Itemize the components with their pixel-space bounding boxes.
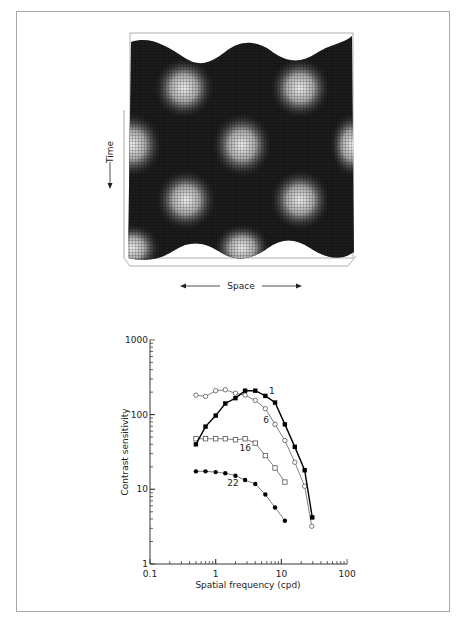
chart-axes: 0.11101001101001000: [125, 335, 356, 579]
y-tick-label: 1: [142, 559, 148, 569]
data-point: [302, 468, 306, 472]
data-point: [203, 424, 207, 428]
data-point: [203, 437, 207, 441]
x-tick-label: 10: [276, 569, 288, 579]
data-point: [223, 471, 227, 475]
series-22: [194, 469, 287, 523]
data-point: [293, 445, 297, 449]
y-axis-label: Contrast sensitivity: [120, 408, 130, 496]
x-axis-label: Spatial frequency (cpd): [195, 580, 300, 590]
contrast-sensitivity-chart: 0.11101001101001000 161622 Spatial frequ…: [0, 0, 466, 622]
series-6: [194, 388, 314, 529]
data-point: [283, 438, 287, 442]
x-tick-label: 0.1: [143, 569, 157, 579]
data-point: [223, 437, 227, 441]
data-point: [203, 394, 207, 398]
data-point: [194, 469, 198, 473]
data-point: [214, 413, 218, 417]
data-point: [263, 453, 267, 457]
y-tick-label: 100: [131, 410, 148, 420]
data-point: [194, 442, 198, 446]
data-point: [233, 391, 237, 395]
data-point: [243, 388, 247, 392]
data-point: [243, 437, 247, 441]
data-point: [310, 515, 314, 519]
data-point: [253, 388, 257, 392]
data-point: [263, 406, 267, 410]
series-annotation: 6: [263, 415, 269, 425]
data-point: [214, 388, 218, 392]
data-point: [223, 388, 227, 392]
data-point: [243, 478, 247, 482]
data-point: [273, 505, 277, 509]
data-point: [194, 393, 198, 397]
data-point: [293, 460, 297, 464]
series-1: [194, 388, 315, 519]
x-tick-label: 100: [339, 569, 356, 579]
data-point: [310, 524, 314, 528]
x-tick-label: 1: [213, 569, 219, 579]
data-point: [273, 422, 277, 426]
data-point: [233, 438, 237, 442]
y-tick-label: 10: [137, 484, 149, 494]
data-point: [253, 398, 257, 402]
data-point: [273, 466, 277, 470]
series-annotation: 1: [269, 386, 275, 396]
data-point: [253, 441, 257, 445]
data-point: [233, 396, 237, 400]
data-point: [263, 394, 267, 398]
data-point: [214, 470, 218, 474]
chart-series: 161622: [194, 386, 315, 529]
data-point: [243, 393, 247, 397]
data-point: [283, 480, 287, 484]
data-point: [302, 484, 306, 488]
data-point: [273, 400, 277, 404]
data-point: [223, 401, 227, 405]
series-annotation: 16: [239, 443, 251, 453]
data-point: [283, 422, 287, 426]
data-point: [283, 518, 287, 522]
data-point: [214, 437, 218, 441]
data-point: [253, 482, 257, 486]
y-tick-label: 1000: [125, 335, 148, 345]
series-annotation: 22: [227, 478, 238, 488]
data-point: [203, 469, 207, 473]
data-point: [263, 492, 267, 496]
